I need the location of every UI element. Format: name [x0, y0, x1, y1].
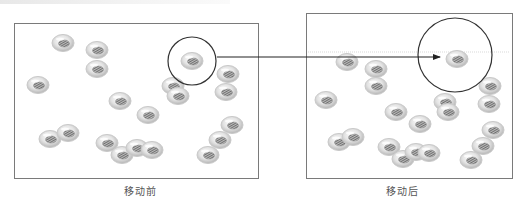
cell-icon: [460, 152, 482, 169]
panel-after: [307, 14, 513, 179]
cell-icon: [141, 142, 163, 159]
cell-icon: [137, 107, 159, 124]
cell-icon: [109, 93, 131, 110]
cell-icon: [221, 117, 243, 134]
cell-icon: [86, 42, 108, 59]
cell-icon: [27, 77, 49, 94]
cell-icon: [167, 88, 189, 105]
cell-icon: [482, 122, 504, 139]
cell-icon: [385, 104, 407, 121]
cell-icon: [215, 84, 237, 101]
cell-icon: [217, 66, 239, 83]
cell-icon: [446, 51, 468, 68]
cell-icon: [365, 61, 387, 78]
cell-icon: [437, 104, 459, 121]
cell-icon: [418, 145, 440, 162]
panel-before: [15, 24, 259, 179]
cell-icon: [315, 92, 337, 109]
cell-icon: [52, 35, 74, 52]
cell-icon: [336, 54, 358, 71]
caption-after: 移动后: [386, 183, 419, 198]
cell-icon: [209, 132, 231, 149]
cell-icon: [478, 96, 500, 113]
cell-icon: [342, 129, 364, 146]
cell-icon: [409, 116, 431, 133]
cell-icon: [365, 78, 387, 95]
cell-icon: [57, 125, 79, 142]
diagram-canvas: [0, 0, 523, 198]
cell-icon: [181, 53, 203, 70]
caption-before: 移动前: [124, 183, 157, 198]
cell-icon: [197, 147, 219, 164]
cell-icon: [86, 61, 108, 78]
